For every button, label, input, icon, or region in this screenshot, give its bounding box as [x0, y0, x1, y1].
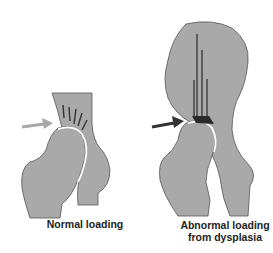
abnormal-load-arrow	[152, 116, 184, 128]
abnormal-femur	[160, 121, 216, 216]
abnormal-label-line1: Abnormal loading	[175, 219, 273, 231]
normal-hip-panel	[22, 93, 110, 218]
abnormal-hip-panel	[152, 22, 254, 216]
normal-loading-label: Normal loading	[30, 218, 140, 230]
abnormal-label-line2: from dysplasia	[175, 231, 273, 243]
abnormal-loading-label: Abnormal loading from dysplasia	[175, 219, 273, 243]
normal-load-arrow	[22, 118, 53, 129]
hip-loading-diagram	[0, 0, 273, 253]
normal-femur	[22, 127, 86, 218]
